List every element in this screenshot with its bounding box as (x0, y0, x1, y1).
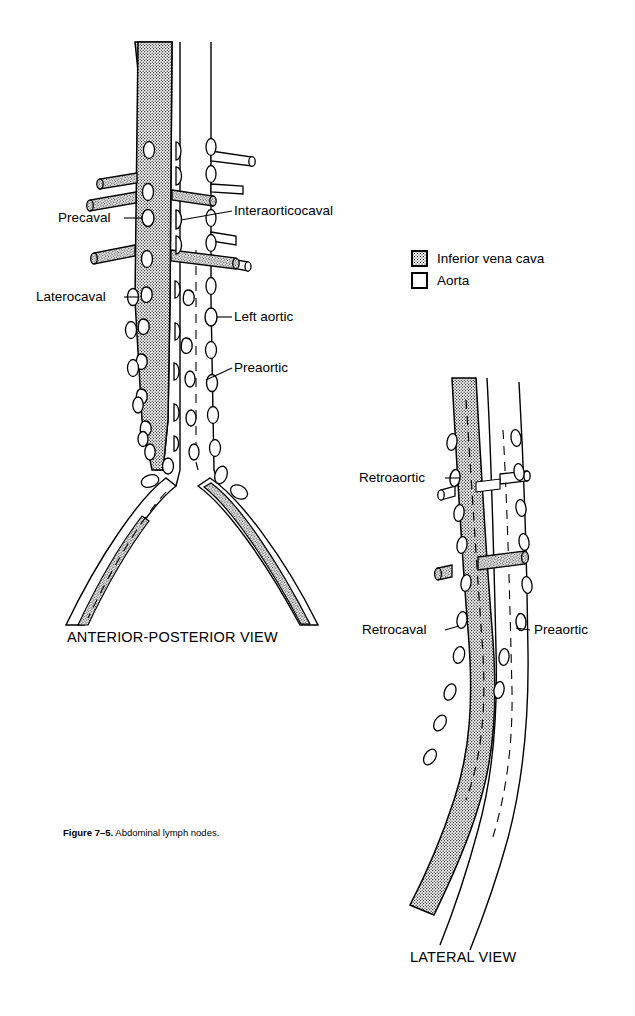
label-precaval: Precaval (58, 211, 111, 225)
stipple-square-icon (411, 250, 428, 267)
label-retroaortic-text: Retroaortic (359, 470, 425, 485)
label-preaortic-lateral: Preaortic (534, 623, 588, 637)
figure-caption-number: Figure 7–5. (63, 827, 113, 838)
legend-item-inferior-vena-cava: Inferior vena cava (411, 247, 544, 269)
legend-label-aorta: Aorta (437, 273, 469, 288)
ap-view-drawing (66, 42, 318, 625)
label-interaorticocaval: Interaorticocaval (234, 204, 333, 218)
label-retrocaval: Retrocaval (362, 623, 427, 637)
anatomy-illustration (0, 0, 635, 1016)
label-precaval-text: Precaval (58, 210, 111, 225)
white-square-icon (411, 272, 428, 289)
ap-iliac-bifurcation (66, 458, 318, 625)
label-laterocaval: Laterocaval (36, 290, 106, 304)
lateral-view-drawing (410, 378, 533, 950)
label-left-aortic-text: Left aortic (234, 309, 293, 324)
legend-label-inferior-vena-cava: Inferior vena cava (437, 251, 544, 266)
lateral-inferior-vena-cava (410, 378, 495, 915)
ap-lymph-nodes-interaorticocaval (174, 142, 199, 460)
ap-view-title: ANTERIOR-POSTERIOR VIEW (67, 629, 278, 645)
lateral-view-title-text: LATERAL VIEW (410, 949, 516, 965)
label-preaortic-ap-text: Preaortic (234, 360, 288, 375)
figure-caption: Figure 7–5. Abdominal lymph nodes. (63, 827, 219, 838)
label-retrocaval-text: Retrocaval (362, 622, 427, 637)
figure-caption-title: Abdominal lymph nodes. (115, 827, 219, 838)
label-left-aortic: Left aortic (234, 310, 293, 324)
label-preaortic-ap: Preaortic (234, 361, 288, 375)
label-preaortic-lateral-text: Preaortic (534, 622, 588, 637)
label-laterocaval-text: Laterocaval (36, 289, 106, 304)
legend: Inferior vena cava Aorta (411, 247, 544, 291)
label-interaorticocaval-text: Interaorticocaval (234, 203, 333, 218)
label-retroaortic: Retroaortic (359, 471, 425, 485)
lateral-view-title: LATERAL VIEW (410, 949, 516, 965)
legend-item-aorta: Aorta (411, 269, 544, 291)
figure-abdominal-lymph-nodes: Precaval Interaorticocaval Laterocaval L… (0, 0, 635, 1016)
ap-view-title-text: ANTERIOR-POSTERIOR VIEW (67, 629, 278, 645)
